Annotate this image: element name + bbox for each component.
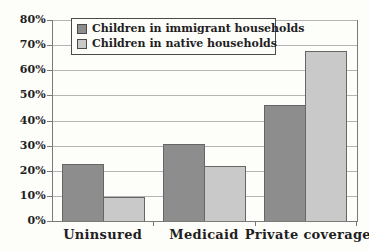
x-axis-tick: [153, 222, 154, 226]
legend-label-immigrant: Children in immigrant households: [92, 21, 305, 36]
y-axis-tick: [47, 221, 52, 222]
bar-native-uninsured: [103, 197, 145, 221]
y-axis-label: 10%: [0, 189, 46, 203]
bar-immigrant-private-coverage: [264, 105, 306, 221]
y-axis-tick: [47, 95, 52, 96]
x-axis-label: Private coverage: [245, 227, 366, 242]
legend-swatch-native: [77, 39, 87, 49]
y-axis-label: 30%: [0, 139, 46, 153]
chart: 0%10%20%30%40%50%60%70%80% UninsuredMedi…: [0, 0, 369, 251]
y-axis-tick: [47, 171, 52, 172]
bar-native-private-coverage: [305, 51, 347, 221]
y-axis-label: 50%: [0, 88, 46, 102]
x-axis-tick: [356, 222, 357, 226]
y-axis-label: 60%: [0, 63, 46, 77]
y-axis-tick: [47, 45, 52, 46]
y-axis-tick: [47, 196, 52, 197]
y-axis-tick: [47, 121, 52, 122]
bar-immigrant-medicaid: [163, 144, 205, 221]
legend-item-native: Children in native households: [77, 36, 275, 51]
legend-swatch-immigrant: [77, 24, 87, 34]
x-axis-tick: [255, 222, 256, 226]
legend: Children in immigrant households Childre…: [71, 18, 276, 55]
y-axis-tick: [47, 20, 52, 21]
y-axis-label: 80%: [0, 13, 46, 27]
y-axis-tick: [47, 146, 52, 147]
bar-immigrant-uninsured: [62, 164, 104, 221]
legend-label-native: Children in native households: [92, 36, 277, 51]
legend-item-immigrant: Children in immigrant households: [77, 21, 275, 36]
y-axis-label: 70%: [0, 38, 46, 52]
bar-native-medicaid: [204, 166, 246, 221]
y-axis-label: 0%: [0, 214, 46, 228]
y-axis-tick: [47, 70, 52, 71]
y-axis-label: 20%: [0, 164, 46, 178]
y-axis-label: 40%: [0, 114, 46, 128]
